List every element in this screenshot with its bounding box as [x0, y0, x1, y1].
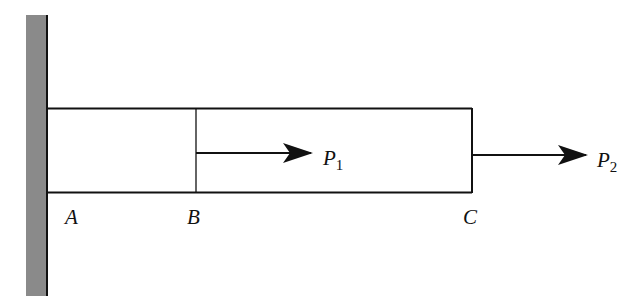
load-label-p1: P1: [322, 146, 343, 173]
fixed-wall: [26, 15, 46, 296]
load-label-p2: P2: [596, 148, 617, 175]
point-label-c: C: [463, 205, 478, 229]
bar-diagram: P1 P2 A B C: [0, 0, 641, 306]
point-label-b: B: [187, 205, 200, 229]
point-label-a: A: [63, 205, 78, 229]
